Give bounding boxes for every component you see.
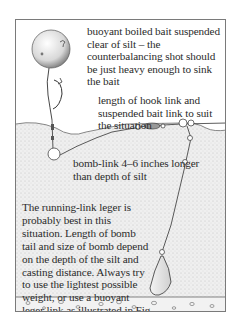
hook: [47, 68, 52, 120]
counterbalance-shot: [48, 148, 60, 160]
bait-label: buoyant boiled bait suspended clear of s…: [87, 25, 226, 88]
figure-caption: The running-link leger is probably best …: [22, 201, 152, 312]
hook-link-label: length of hook link and suspended bait l…: [98, 94, 226, 132]
boilie-bait: [32, 30, 70, 68]
diagram-frame: buoyant boiled bait suspended clear of s…: [15, 19, 226, 312]
bomb-link-label: bomb-link 4–6 inches longer than depth o…: [73, 157, 203, 182]
